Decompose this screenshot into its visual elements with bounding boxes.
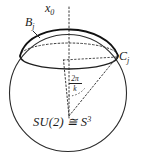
angle-label-2pi-over-k: 2π k <box>64 75 86 92</box>
group-label-base: SU(2) ≅ S <box>33 115 87 129</box>
group-label-superscript: 3 <box>87 115 91 124</box>
angle-numerator: 2π <box>64 75 86 83</box>
cap-label-bj: Bj <box>25 16 35 31</box>
cap-label-subscript: j <box>32 22 34 31</box>
sphere-outline <box>10 35 127 152</box>
axis-label-x0: x0 <box>45 2 54 17</box>
point-label-subscript: j <box>127 56 129 65</box>
angle-wedge-chord <box>64 57 118 60</box>
axis-label-subscript: 0 <box>50 8 54 17</box>
angle-denominator: k <box>64 85 86 93</box>
su2-sphere-cap-diagram: x0 Bj Cj 2π k SU(2) ≅ S3 <box>0 0 146 162</box>
group-label-su2: SU(2) ≅ S3 <box>33 116 91 129</box>
point-label-base: C <box>119 49 127 63</box>
point-label-cj: Cj <box>119 50 129 65</box>
